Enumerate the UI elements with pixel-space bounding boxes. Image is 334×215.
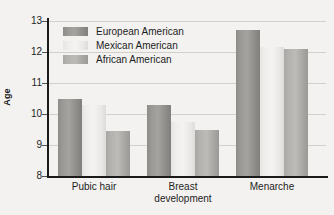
- bar: [106, 131, 130, 176]
- y-tick-label: 10: [20, 108, 42, 119]
- bar: [147, 105, 171, 176]
- legend-swatch: [63, 41, 88, 50]
- bar: [171, 122, 195, 176]
- category-label-line: development: [133, 193, 233, 205]
- bar: [284, 49, 308, 176]
- y-tick-mark: [42, 114, 47, 115]
- legend-label: Mexican American: [96, 40, 178, 51]
- y-tick-label: 12: [20, 46, 42, 57]
- y-tick-mark: [42, 21, 47, 22]
- legend-item: European American: [63, 25, 184, 38]
- y-axis-line: [47, 18, 49, 176]
- x-axis-line: [47, 176, 328, 178]
- legend-swatch: [63, 27, 88, 36]
- y-tick-mark: [42, 145, 47, 146]
- bar: [58, 99, 82, 177]
- y-tick-label: 11: [20, 77, 42, 88]
- category-label-line: Pubic hair: [44, 181, 144, 193]
- category-label-line: Breast: [133, 181, 233, 193]
- bar: [236, 30, 260, 176]
- y-tick-mark: [42, 176, 47, 177]
- y-tick-mark: [42, 52, 47, 53]
- bar: [260, 47, 284, 176]
- bar-chart: Age 8910111213 European AmericanMexican …: [0, 0, 334, 215]
- category-label-line: Menarche: [222, 181, 322, 193]
- category-label: Pubic hair: [44, 181, 144, 193]
- y-tick-mark: [42, 83, 47, 84]
- y-tick-label: 9: [20, 139, 42, 150]
- y-tick-label: 13: [20, 15, 42, 26]
- y-axis-title: Age: [2, 77, 12, 117]
- legend-label: African American: [96, 54, 172, 65]
- legend-label: European American: [96, 26, 184, 37]
- legend-item: Mexican American: [63, 39, 184, 52]
- category-label: Breastdevelopment: [133, 181, 233, 204]
- gridline: [49, 21, 326, 22]
- legend-swatch: [63, 55, 88, 64]
- bar: [195, 130, 219, 177]
- chart-legend: European AmericanMexican AmericanAfrican…: [63, 25, 184, 67]
- category-label: Menarche: [222, 181, 322, 193]
- legend-item: African American: [63, 53, 184, 66]
- y-tick-label: 8: [20, 170, 42, 181]
- bar: [82, 105, 106, 176]
